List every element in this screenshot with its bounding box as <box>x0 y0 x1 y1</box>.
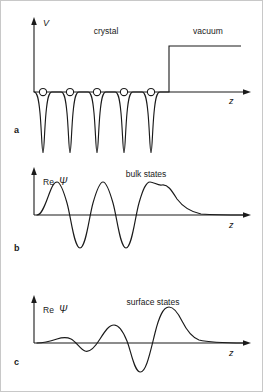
panel-b-bulk-states: Re Ψ z bulk states b <box>1 153 263 283</box>
surface-state-wavefunction-curve <box>37 307 244 372</box>
figure-container: V z crystal vacuum a Re Ψ z bulk states … <box>0 0 263 392</box>
atom-core-marker <box>39 88 46 95</box>
panel-c-label: c <box>14 357 19 367</box>
panel-b-y-axis-label-prefix: Re <box>43 177 54 187</box>
panel-b-y-axis-label-symbol: Ψ <box>59 176 68 187</box>
surface-states-title: surface states <box>127 297 180 307</box>
atom-core-marker <box>120 88 127 95</box>
v-axis-arrowhead <box>31 17 37 25</box>
panel-a-x-axis-label: z <box>228 96 234 106</box>
bulk-states-title: bulk states <box>126 169 167 179</box>
vacuum-region-label: vacuum <box>193 26 223 36</box>
panel-a-label: a <box>14 125 20 135</box>
panel-c-y-axis-label-prefix: Re <box>43 305 54 315</box>
crystal-region-label: crystal <box>94 26 119 36</box>
panel-c-surface-states: Re Ψ z surface states c <box>1 283 263 391</box>
z-axis-arrowhead <box>243 89 251 95</box>
panel-c-x-axis-label: z <box>228 348 234 358</box>
psi-axis-b-arrowhead <box>31 167 37 175</box>
psi-axis-c-arrowhead <box>31 295 37 303</box>
v-axis <box>31 17 37 92</box>
psi-axis-c <box>31 295 37 343</box>
panel-c-y-axis-label-symbol: Ψ <box>59 304 68 315</box>
panel-b-label: b <box>14 243 20 253</box>
vacuum-step-curve <box>169 46 241 92</box>
potential-wells-curve <box>34 92 169 153</box>
atom-core-marker <box>66 88 73 95</box>
panel-b-x-axis-label: z <box>228 220 234 230</box>
z-axis-c <box>34 340 251 346</box>
panel-a-crystal-potential: V z crystal vacuum a <box>1 1 263 153</box>
panel-a-y-axis-label: V <box>43 18 50 28</box>
atom-core-marker <box>93 88 100 95</box>
psi-axis-b <box>31 167 37 215</box>
atom-core-marker <box>147 88 154 95</box>
